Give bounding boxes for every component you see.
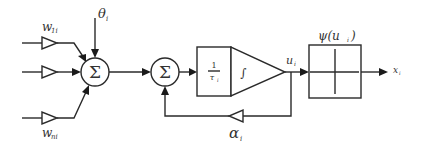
arrow-icon bbox=[189, 68, 197, 76]
sigma-icon: Σ bbox=[159, 62, 171, 82]
feedback-gain-triangle bbox=[229, 110, 243, 122]
threshold-input bbox=[91, 18, 99, 58]
integral-icon: ∫ bbox=[240, 66, 247, 80]
svg-text:ψ(u: ψ(u bbox=[318, 29, 340, 43]
input-2 bbox=[22, 66, 81, 78]
svg-text:α: α bbox=[229, 124, 239, 142]
arrow-icon bbox=[142, 68, 151, 76]
svg-text:i: i bbox=[399, 70, 401, 76]
arrow-icon bbox=[161, 86, 169, 95]
svg-text:i: i bbox=[347, 36, 349, 43]
weight-n-triangle bbox=[42, 112, 57, 124]
svg-text:θ: θ bbox=[98, 6, 106, 21]
arrow-icon bbox=[78, 54, 86, 62]
svg-text:): ) bbox=[350, 29, 356, 43]
svg-text:1i: 1i bbox=[51, 27, 58, 35]
arrow-icon bbox=[72, 68, 81, 76]
input-1 bbox=[22, 37, 86, 62]
weight-2-triangle bbox=[42, 66, 57, 78]
svg-text:i: i bbox=[240, 135, 242, 143]
neuron-diagram: Σ Σ 1 τ i ∫ u i ψ(u i ) x i w 1i w ni θ … bbox=[0, 0, 422, 154]
input-n bbox=[22, 85, 89, 124]
arrow-icon bbox=[91, 49, 99, 58]
svg-text:i: i bbox=[294, 60, 296, 67]
weight-1-triangle bbox=[42, 37, 57, 49]
svg-text:u: u bbox=[286, 54, 293, 67]
arrow-icon bbox=[82, 85, 89, 95]
svg-text:x: x bbox=[393, 65, 398, 75]
svg-text:i: i bbox=[106, 15, 108, 23]
svg-text:1: 1 bbox=[211, 61, 216, 70]
svg-text:τ: τ bbox=[210, 73, 215, 82]
arrow-icon bbox=[379, 68, 388, 76]
svg-text:ni: ni bbox=[51, 133, 58, 141]
sigma-icon: Σ bbox=[89, 62, 101, 82]
arrow-icon bbox=[300, 68, 309, 76]
